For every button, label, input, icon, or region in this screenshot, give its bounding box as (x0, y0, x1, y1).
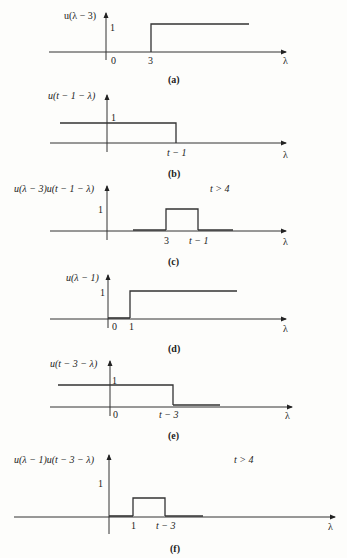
panel-e-level-label: 1 (112, 376, 117, 386)
panel-f-tick-t-minus-3: t − 3 (156, 521, 176, 531)
panel-d-ylabel: u(λ − 1) (66, 273, 99, 283)
panel-c-caption: (c) (168, 257, 179, 267)
panel-c-condition: t > 4 (210, 184, 230, 194)
panel-b-tick-t-minus-1: t − 1 (167, 148, 187, 158)
panel-b-ylabel: u(t − 1 − λ) (48, 91, 95, 101)
panel-f-ylabel: u(λ − 1)u(t − 3 − λ) (14, 455, 94, 465)
panel-b-level-label: 1 (111, 113, 116, 123)
panel-d-level-label: 1 (100, 288, 105, 298)
panel-d-tick-1: 1 (129, 322, 134, 332)
panel-d-xlabel: λ (283, 324, 288, 334)
panel-a-ylabel: u(λ − 3) (64, 11, 96, 21)
panel-a-caption: (a) (168, 75, 180, 85)
panel-b-plot (50, 95, 286, 152)
panel-a-tick-0: 0 (111, 56, 116, 66)
panel-e-ylabel: u(t − 3 − λ) (50, 359, 97, 369)
panel-c-level-label: 1 (98, 205, 103, 215)
panel-f-tick-1: 1 (131, 521, 136, 531)
panel-d-caption: (d) (168, 344, 180, 354)
panel-a-level-label: 1 (110, 23, 115, 33)
panel-c-tick-3: 3 (164, 236, 169, 246)
panel-e-tick-t-minus-3: t − 3 (159, 410, 179, 420)
panel-e-xlabel: λ (285, 411, 290, 421)
panel-f-xlabel: λ (328, 522, 333, 532)
panel-e-caption: (e) (168, 431, 179, 441)
panel-c-xlabel: λ (283, 237, 288, 247)
panel-c-plot (50, 186, 286, 240)
panel-b-caption: (b) (168, 169, 180, 179)
panel-f-level-label: 1 (98, 479, 103, 489)
panel-c-tick-t-minus-1: t − 1 (189, 236, 209, 246)
panel-c-ylabel: u(λ − 3)u(t − 1 − λ) (14, 184, 94, 194)
panel-a-tick-3: 3 (148, 56, 153, 66)
panel-b-xlabel: λ (283, 150, 288, 160)
panel-a-xlabel: λ (283, 56, 288, 66)
panel-d-tick-0: 0 (112, 322, 117, 332)
panel-f-condition: t > 4 (234, 455, 254, 465)
panel-e-plot (50, 361, 292, 416)
panel-f-caption: (f) (170, 544, 180, 554)
panel-e-tick-0: 0 (113, 410, 118, 420)
